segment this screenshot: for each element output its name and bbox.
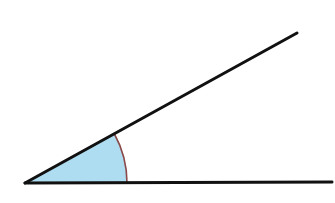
angle-diagram-canvas xyxy=(0,0,335,203)
diagonal-ray xyxy=(25,33,297,183)
angle-diagram-svg xyxy=(0,0,335,203)
horizontal-ray xyxy=(25,182,332,183)
